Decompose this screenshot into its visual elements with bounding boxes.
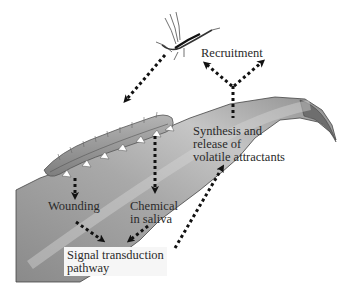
diagram-canvas — [0, 0, 350, 308]
label-signal-line2: pathway — [67, 262, 164, 275]
label-chemical: Chemical in saliva — [130, 200, 178, 226]
label-signal-transduction: Signal transduction pathway — [64, 247, 167, 276]
arrow-wasp-to-caterpillar — [126, 55, 165, 100]
arrow-synthesis-to-recruitment-left — [206, 64, 232, 86]
label-chemical-line2: in saliva — [130, 213, 178, 226]
label-synthesis: Synthesis and release of volatile attrac… — [193, 125, 285, 164]
label-recruitment: Recruitment — [201, 47, 263, 60]
label-wounding: Wounding — [48, 200, 100, 213]
label-synthesis-line3: volatile attractants — [193, 151, 285, 164]
arrow-synthesis-to-recruitment-right — [234, 62, 262, 86]
